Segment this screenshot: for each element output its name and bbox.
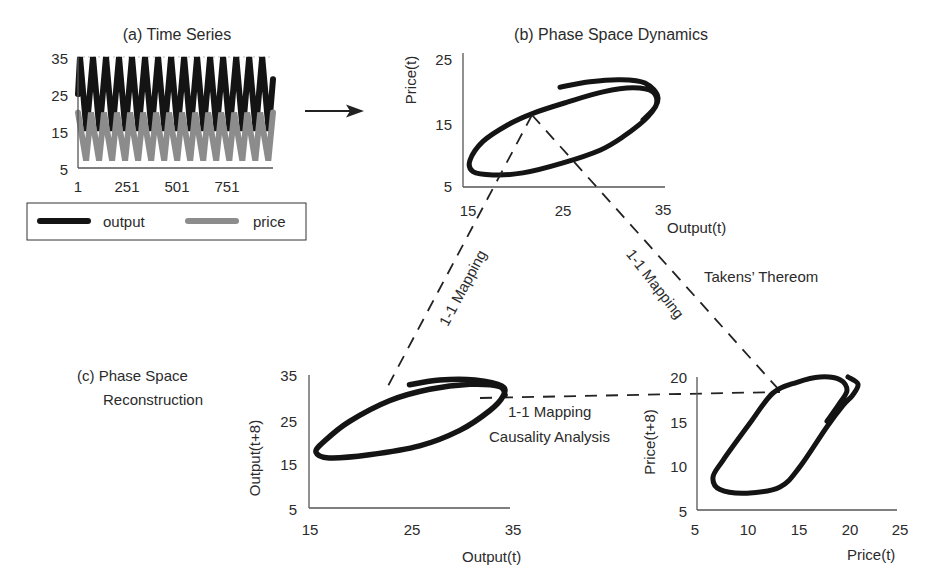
mapping-label-right: 1-1 Mapping	[623, 246, 688, 322]
takens-theorem-label: Takens’ Thereom	[704, 268, 818, 285]
y-axis-label: Output(t+8)	[246, 420, 263, 496]
dashed-line-left	[388, 115, 532, 386]
y-tick-label: 15	[280, 456, 297, 473]
legend-label-output: output	[103, 213, 146, 230]
x-axis-label: Price(t)	[847, 546, 895, 563]
x-tick-label: 501	[164, 178, 189, 195]
y-tick-label: 25	[51, 87, 68, 104]
price-reconstruction-plot: 20 15 10 5 5 10 15 20 25 Price(t) Price(…	[641, 369, 908, 563]
mapping-connectors: 1-1 Mapping 1-1 Mapping Takens’ Thereom …	[388, 115, 818, 445]
x-tick-label: 15	[460, 202, 477, 219]
causality-analysis-label: Causality Analysis	[489, 428, 610, 445]
price-trajectory-plot-area	[713, 377, 858, 493]
x-tick-label: 10	[740, 521, 757, 538]
y-tick-label: 35	[280, 367, 297, 384]
y-tick-label: 35	[51, 50, 68, 67]
y-tick-label: 15	[435, 116, 452, 133]
x-axis-label: Output(t)	[667, 219, 726, 236]
panel-b-title: (b) Phase Space Dynamics	[514, 26, 708, 43]
legend: output price	[27, 203, 306, 240]
mapping-label-left: 1-1 Mapping	[435, 247, 489, 329]
panel-c-title-line1: (c) Phase Space	[77, 367, 188, 384]
right-arrow-icon	[305, 105, 364, 118]
panel-time-series: (a) Time Series 35 25 15 5 1 251 501 751…	[27, 26, 306, 240]
x-tick-label: 751	[214, 178, 239, 195]
x-tick-label: 15	[791, 521, 808, 538]
x-axis-label: Output(t)	[462, 548, 521, 565]
y-axis-label: Price(t)	[402, 56, 419, 104]
y-tick-label: 25	[435, 51, 452, 68]
y-axis-label: Price(t+8)	[641, 409, 658, 474]
x-tick-label: 25	[555, 202, 572, 219]
x-tick-label: 25	[404, 521, 421, 538]
x-tick-label: 1	[74, 178, 82, 195]
x-tick-label: 5	[691, 521, 699, 538]
panel-a-title: (a) Time Series	[123, 26, 231, 43]
y-tick-label: 5	[60, 161, 68, 178]
phase-trajectory-plot-area	[469, 80, 658, 175]
y-tick-label: 20	[670, 369, 687, 386]
x-tick-label: 35	[505, 521, 522, 538]
y-tick-label: 5	[679, 503, 687, 520]
y-tick-label: 5	[444, 178, 452, 195]
y-tick-label: 10	[670, 458, 687, 475]
mapping-label-middle: 1-1 Mapping	[508, 403, 591, 420]
panel-phase-space-reconstruction: (c) Phase Space Reconstruction 35 25 15 …	[77, 367, 908, 565]
x-tick-label: 25	[892, 521, 909, 538]
legend-label-price: price	[253, 213, 286, 230]
x-tick-label: 20	[842, 521, 859, 538]
trajectory-line	[713, 377, 858, 493]
panel-c-title-line2: Reconstruction	[103, 391, 203, 408]
output-trajectory-plot-area	[316, 379, 505, 458]
y-tick-label: 15	[670, 414, 687, 431]
dashed-line-horizontal	[480, 392, 780, 398]
y-tick-label: 15	[51, 124, 68, 141]
x-tick-label: 15	[302, 521, 319, 538]
output-reconstruction-plot: 35 25 15 5 15 25 35 Output(t) Output(t+8…	[246, 367, 521, 565]
trajectory-line	[469, 80, 658, 175]
x-tick-label: 35	[655, 201, 672, 218]
y-tick-label: 25	[280, 413, 297, 430]
dashed-line-right	[532, 115, 780, 391]
y-tick-label: 5	[289, 501, 297, 518]
figure-canvas: (a) Time Series 35 25 15 5 1 251 501 751…	[0, 0, 942, 587]
time-series-plot-area	[78, 57, 273, 161]
x-tick-label: 251	[114, 178, 139, 195]
panel-phase-space-dynamics: (b) Phase Space Dynamics 25 15 5 15 25 3…	[402, 26, 726, 236]
trajectory-line	[316, 379, 505, 458]
